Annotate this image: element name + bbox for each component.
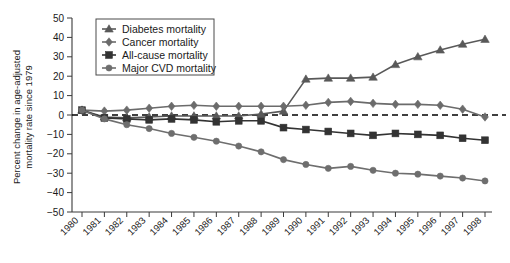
data-point [481, 35, 490, 42]
line-chart: Percent change in age-adjustedmortality … [0, 0, 510, 263]
data-point [370, 167, 376, 173]
x-tick-label: 1984 [147, 215, 170, 238]
data-point [168, 102, 175, 111]
legend-item-label: Diabetes mortality [122, 23, 207, 35]
data-point [303, 161, 309, 167]
series-major-cvd-mortality [79, 107, 488, 184]
y-axis-label: Percent change in age-adjustedmortality … [11, 50, 34, 184]
data-point [370, 132, 377, 139]
data-point [235, 102, 242, 111]
data-point [302, 101, 309, 110]
x-tick-label: 1980 [58, 215, 81, 238]
data-point [392, 170, 398, 176]
y-tick-label: −30 [47, 168, 64, 179]
data-point [280, 157, 286, 163]
x-tick-label: 1991 [304, 215, 327, 238]
y-tick-label: −10 [47, 129, 64, 140]
data-point [236, 143, 242, 149]
data-point [325, 98, 332, 107]
legend-item-label: Cancer mortality [122, 36, 199, 48]
chart-figure: Percent change in age-adjustedmortality … [0, 0, 510, 263]
data-point [325, 128, 332, 135]
y-tick-label: 10 [53, 90, 65, 101]
x-tick-label: 1988 [237, 215, 260, 238]
data-point [325, 165, 331, 171]
x-axis-ticks: 1980198119821983198419851986198719881989… [58, 212, 485, 237]
data-point [191, 134, 197, 140]
data-point [235, 117, 242, 124]
x-tick-label: 1997 [438, 215, 461, 238]
x-tick-label: 1987 [214, 215, 237, 238]
data-point [191, 116, 198, 123]
data-point [146, 125, 152, 131]
x-tick-label: 1993 [349, 215, 372, 238]
data-point [437, 132, 444, 139]
data-point [213, 118, 220, 125]
data-point [258, 117, 265, 124]
y-axis-title: Percent change in age-adjustedmortality … [11, 50, 34, 184]
x-tick-label: 1992 [326, 215, 349, 238]
data-point [168, 130, 174, 136]
data-point [459, 135, 466, 142]
data-point [482, 137, 489, 144]
chart-legend: Diabetes mortalityCancer mortalityAll-ca… [96, 19, 217, 75]
data-point [146, 116, 153, 123]
x-tick-label: 1989 [259, 215, 282, 238]
data-point [370, 99, 377, 108]
data-point [213, 138, 219, 144]
data-point [123, 106, 130, 115]
legend-item-label: Major CVD mortality [122, 62, 217, 74]
x-tick-label: 1983 [125, 215, 148, 238]
data-point [392, 100, 399, 109]
y-tick-label: −50 [47, 207, 64, 218]
data-point [392, 130, 399, 137]
data-point [437, 173, 443, 179]
data-point [168, 115, 175, 122]
data-point [414, 100, 421, 109]
data-point [414, 131, 421, 138]
data-point [101, 116, 107, 122]
x-tick-label: 1986 [192, 215, 215, 238]
data-point [459, 105, 466, 114]
x-tick-label: 1990 [282, 215, 305, 238]
data-point [79, 107, 85, 113]
data-point [123, 115, 130, 122]
data-point [302, 126, 309, 133]
y-tick-label: 0 [58, 110, 64, 121]
data-point [258, 102, 265, 111]
legend-item-label: All-cause mortality [122, 49, 209, 61]
data-point [460, 175, 466, 181]
x-tick-label: 1985 [170, 215, 193, 238]
data-point [280, 102, 287, 111]
data-point [415, 171, 421, 177]
data-point [213, 102, 220, 111]
x-tick-label: 1994 [371, 215, 394, 238]
x-tick-label: 1981 [80, 215, 103, 238]
y-tick-label: −40 [47, 187, 64, 198]
y-tick-label: 50 [53, 13, 65, 24]
y-tick-label: 20 [53, 71, 65, 82]
data-point [348, 163, 354, 169]
data-point [258, 149, 264, 155]
data-point [146, 104, 153, 113]
data-point [101, 107, 108, 116]
data-point [191, 101, 198, 110]
data-point [280, 124, 287, 131]
x-tick-label: 1995 [394, 215, 417, 238]
y-tick-label: 40 [53, 32, 65, 43]
data-point [347, 130, 354, 137]
data-point [482, 178, 488, 184]
legend-marker-square [106, 52, 113, 59]
data-point [437, 101, 444, 110]
y-axis-ticks: 50403020100−10−20−30−40−50 [47, 13, 72, 218]
data-point [124, 122, 130, 128]
y-tick-label: −20 [47, 148, 64, 159]
data-point [347, 97, 354, 106]
legend-marker-circle [106, 65, 112, 71]
data-point [482, 113, 489, 122]
x-tick-label: 1998 [461, 215, 484, 238]
x-tick-label: 1996 [416, 215, 439, 238]
x-tick-label: 1982 [102, 215, 125, 238]
y-tick-label: 30 [53, 51, 65, 62]
